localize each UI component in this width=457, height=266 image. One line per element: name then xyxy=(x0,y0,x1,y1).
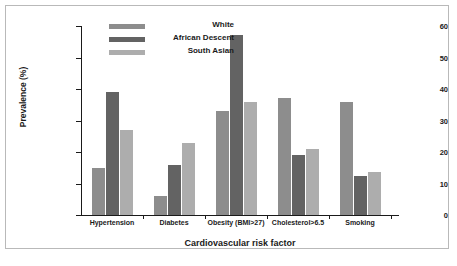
x-axis-title: Cardiovascular risk factor xyxy=(81,238,399,248)
x-axis-tick-label: Cholesterol>6.5 xyxy=(272,219,324,226)
legend-swatch xyxy=(109,24,145,29)
bar xyxy=(182,143,195,215)
y-axis-tick-label: 60 xyxy=(396,22,448,31)
x-axis-tick xyxy=(143,215,144,219)
bar xyxy=(230,35,243,215)
y-axis-tick-label: 0 xyxy=(396,211,448,220)
bar xyxy=(306,149,319,215)
figure: Prevalence (%) 0102030405060 Hypertensio… xyxy=(0,0,457,266)
bar xyxy=(92,168,105,215)
x-axis-tick-label: Smoking xyxy=(345,219,375,226)
bar-group xyxy=(278,26,319,215)
legend-label: African Descent xyxy=(173,33,234,42)
bar xyxy=(278,98,291,215)
legend-swatch xyxy=(109,50,145,55)
y-axis-tick-label: 20 xyxy=(396,148,448,157)
x-axis-tick xyxy=(267,215,268,219)
y-axis-tick-label: 10 xyxy=(396,180,448,189)
bar xyxy=(216,111,229,215)
bar xyxy=(340,102,353,215)
x-axis-tick xyxy=(391,215,392,219)
y-axis-tick-label: 30 xyxy=(396,117,448,126)
bar xyxy=(292,155,305,215)
chart-frame: Prevalence (%) 0102030405060 Hypertensio… xyxy=(5,5,449,249)
bar xyxy=(154,196,167,215)
x-axis-tick-label: Obesity (BMI>27) xyxy=(208,219,265,226)
x-axis-tick-label: Diabetes xyxy=(159,219,188,226)
legend-label: White xyxy=(212,20,234,29)
legend-item: White xyxy=(109,20,234,33)
legend-label: South Asian xyxy=(188,46,234,55)
bar xyxy=(354,176,367,215)
x-axis-tick xyxy=(329,215,330,219)
x-axis-tick xyxy=(205,215,206,219)
bar-group xyxy=(340,26,381,215)
y-axis-title: Prevalence (%) xyxy=(18,37,28,157)
legend-swatch xyxy=(109,37,145,42)
bar xyxy=(168,165,181,215)
legend-item: African Descent xyxy=(109,33,234,46)
x-axis-line xyxy=(81,215,399,216)
bar xyxy=(244,102,257,215)
x-axis-tick-label: Hypertension xyxy=(90,219,135,226)
bar xyxy=(106,92,119,215)
y-axis-tick xyxy=(76,215,81,216)
legend: WhiteAfrican DescentSouth Asian xyxy=(109,20,234,59)
legend-item: South Asian xyxy=(109,46,234,59)
bar xyxy=(368,172,381,215)
y-axis-tick-label: 40 xyxy=(396,85,448,94)
y-axis-tick-label: 50 xyxy=(396,54,448,63)
bar xyxy=(120,130,133,215)
